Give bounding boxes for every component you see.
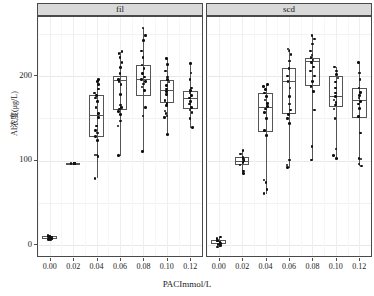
y-tick-label: 200 xyxy=(8,71,32,79)
data-point xyxy=(166,63,169,66)
data-point xyxy=(312,66,315,69)
data-point xyxy=(97,116,100,119)
data-point xyxy=(242,172,245,175)
data-point xyxy=(96,139,99,142)
grid-line-vertical-minor xyxy=(132,17,133,256)
data-point xyxy=(288,60,291,63)
data-point xyxy=(94,129,97,132)
x-tick-label: 0.08 xyxy=(130,262,156,271)
x-tick-label: 0.12 xyxy=(177,262,203,271)
data-point xyxy=(166,133,169,136)
data-point xyxy=(95,94,98,97)
data-point xyxy=(119,104,122,107)
data-point xyxy=(140,78,143,81)
data-point xyxy=(266,83,269,86)
grid-line-vertical-minor xyxy=(254,17,255,256)
data-point xyxy=(263,111,266,114)
data-point xyxy=(263,129,266,132)
x-tick-mark xyxy=(312,258,313,261)
grid-line-vertical-minor xyxy=(155,17,156,256)
data-point xyxy=(191,111,194,114)
data-point xyxy=(263,192,266,195)
data-point xyxy=(119,113,122,116)
data-point xyxy=(310,85,313,88)
data-point xyxy=(190,94,193,97)
data-point xyxy=(335,73,338,76)
grid-line-vertical xyxy=(167,17,168,256)
grid-line-vertical-minor xyxy=(348,17,349,256)
data-point xyxy=(120,83,123,86)
data-point xyxy=(266,102,269,105)
x-tick-mark xyxy=(50,258,51,261)
data-point xyxy=(333,108,336,111)
data-point xyxy=(334,95,337,98)
chart-figure: Al浓度(μg/L) 0100200 fil scd 0.000.020.040… xyxy=(0,0,374,296)
panel-strip-fil: fil xyxy=(37,3,203,16)
data-point xyxy=(190,106,193,109)
data-point xyxy=(359,78,362,81)
x-tick-label: 0.00 xyxy=(37,262,63,271)
data-point xyxy=(287,113,290,116)
x-tick-mark xyxy=(289,258,290,261)
data-point xyxy=(97,88,100,91)
data-point xyxy=(265,95,268,98)
grid-line-vertical-minor xyxy=(277,17,278,256)
x-tick-label: 0.12 xyxy=(346,262,372,271)
x-tick-mark xyxy=(266,258,267,261)
data-point xyxy=(141,72,144,75)
data-point xyxy=(144,34,147,37)
x-tick-mark xyxy=(219,258,220,261)
data-point xyxy=(359,100,362,103)
grid-line-vertical-minor xyxy=(202,17,203,256)
data-point xyxy=(166,78,169,81)
data-point xyxy=(311,145,314,148)
x-tick-mark xyxy=(336,258,337,261)
grid-line-vertical-minor xyxy=(61,17,62,256)
data-point xyxy=(311,43,314,46)
data-point xyxy=(335,148,338,151)
data-point xyxy=(358,94,361,97)
x-tick-label: 0.00 xyxy=(206,262,232,271)
y-tick-label: 100 xyxy=(8,155,32,163)
box-plot-box xyxy=(282,68,297,115)
data-point xyxy=(333,66,336,69)
data-point xyxy=(144,106,147,109)
data-point xyxy=(97,83,100,86)
panel-strip-scd-label: scd xyxy=(283,4,295,14)
data-point xyxy=(190,72,193,75)
x-tick-mark xyxy=(143,258,144,261)
x-tick-label: 0.04 xyxy=(253,262,279,271)
plot-area-fil xyxy=(38,17,202,256)
data-point xyxy=(266,105,269,108)
data-point xyxy=(313,109,316,112)
x-tick-label: 0.06 xyxy=(107,262,133,271)
data-point xyxy=(335,157,338,160)
data-point xyxy=(332,154,335,157)
data-point xyxy=(264,88,267,91)
data-point xyxy=(312,90,315,93)
data-point xyxy=(288,95,291,98)
data-point xyxy=(165,90,168,93)
x-tick-label: 0.02 xyxy=(60,262,86,271)
data-point xyxy=(142,39,145,42)
data-point xyxy=(357,61,360,64)
data-point xyxy=(120,106,123,109)
data-point xyxy=(119,56,122,59)
data-point xyxy=(358,157,361,160)
grid-line-vertical-minor xyxy=(108,17,109,256)
data-point xyxy=(94,177,97,180)
y-tick-label: 0 xyxy=(8,240,32,248)
data-point xyxy=(166,102,169,105)
data-point xyxy=(143,89,146,92)
y-axis-title: Al浓度(μg/L) xyxy=(8,69,19,159)
data-point xyxy=(242,149,245,152)
x-tick-mark xyxy=(97,258,98,261)
data-point xyxy=(288,67,291,70)
data-point xyxy=(165,57,168,60)
data-point xyxy=(191,126,194,129)
data-point xyxy=(119,93,122,96)
data-point xyxy=(164,99,167,102)
x-tick-mark xyxy=(242,258,243,261)
data-point xyxy=(288,122,291,125)
grid-line-vertical-minor xyxy=(230,17,231,256)
